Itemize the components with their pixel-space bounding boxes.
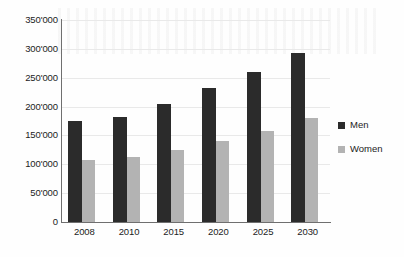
bar-women-2020[interactable]	[216, 141, 229, 222]
y-tick-label: 200'000	[2, 102, 58, 112]
bar-men-2015[interactable]	[157, 104, 171, 222]
bar-men-2010[interactable]	[113, 117, 127, 222]
legend-label-women: Women	[350, 144, 383, 154]
legend-label-men: Men	[350, 120, 368, 130]
x-tick-label: 2015	[154, 226, 194, 237]
y-tick-label: 50'000	[2, 188, 58, 198]
chart-legend: Men Women	[338, 120, 383, 168]
x-axis-line	[61, 222, 331, 223]
bar-group	[196, 20, 236, 222]
x-tick-label: 2030	[288, 226, 328, 237]
legend-item-men[interactable]: Men	[338, 120, 383, 130]
bar-men-2025[interactable]	[247, 72, 261, 222]
y-tick-label: 100'000	[2, 159, 58, 169]
bar-women-2030[interactable]	[305, 118, 318, 222]
bar-women-2010[interactable]	[127, 157, 140, 222]
bar-women-2025[interactable]	[261, 131, 274, 222]
bar-group	[285, 20, 325, 222]
bar-women-2015[interactable]	[171, 150, 184, 222]
women-swatch-icon	[338, 146, 345, 153]
x-tick-label: 2020	[198, 226, 238, 237]
y-tick-label: 350'000	[2, 15, 58, 25]
plot-area	[62, 20, 330, 222]
y-tick-label: 150'000	[2, 130, 58, 140]
x-tick-label: 2008	[64, 226, 104, 237]
y-tick-label: 250'000	[2, 73, 58, 83]
bar-group	[107, 20, 147, 222]
bar-chart: 050'000100'000150'000200'000250'000300'0…	[0, 0, 404, 257]
bar-group	[151, 20, 191, 222]
x-tick-label: 2025	[243, 226, 283, 237]
bar-group	[241, 20, 281, 222]
bar-women-2008[interactable]	[82, 160, 95, 222]
bar-men-2020[interactable]	[202, 88, 216, 222]
men-swatch-icon	[338, 122, 345, 129]
bar-men-2008[interactable]	[68, 121, 82, 222]
x-tick-label: 2010	[109, 226, 149, 237]
bar-men-2030[interactable]	[291, 53, 305, 222]
y-tick-label: 0	[2, 217, 58, 227]
legend-item-women[interactable]: Women	[338, 144, 383, 154]
bar-group	[62, 20, 102, 222]
y-tick-label: 300'000	[2, 44, 58, 54]
